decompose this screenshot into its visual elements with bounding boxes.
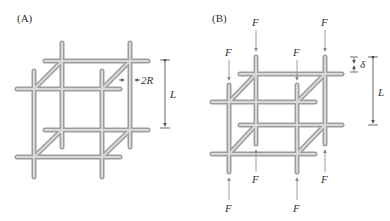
- force-label: F: [224, 202, 232, 214]
- force-label: F: [251, 173, 259, 185]
- bottom-force-arrows: F F F F: [224, 150, 328, 214]
- cell-length-dimension-b: L: [368, 57, 384, 125]
- rod-diameter-label: 2R: [141, 74, 154, 86]
- top-force-arrows: F F F F: [224, 16, 328, 80]
- panel-a-label: (A): [17, 12, 33, 25]
- force-label: F: [320, 173, 328, 185]
- panel-b: (B): [212, 12, 384, 214]
- cell-length-label-a: L: [169, 88, 176, 100]
- cell-length-label-b: L: [377, 86, 384, 98]
- force-label: F: [251, 16, 259, 28]
- cell-length-dimension-a: L: [160, 60, 176, 128]
- panel-a-lattice: [17, 43, 148, 177]
- displacement-label: δ: [360, 58, 366, 70]
- panel-a: (A): [17, 12, 176, 177]
- force-label: F: [292, 202, 300, 214]
- panel-b-label: (B): [212, 12, 227, 25]
- force-label: F: [320, 16, 328, 28]
- rod-diameter-annotation: 2R: [119, 74, 154, 86]
- lattice-figure: (A): [0, 0, 390, 221]
- force-label: F: [292, 46, 300, 58]
- displacement-dimension: δ: [350, 57, 366, 72]
- force-label: F: [224, 46, 232, 58]
- panel-b-lattice: [212, 57, 342, 172]
